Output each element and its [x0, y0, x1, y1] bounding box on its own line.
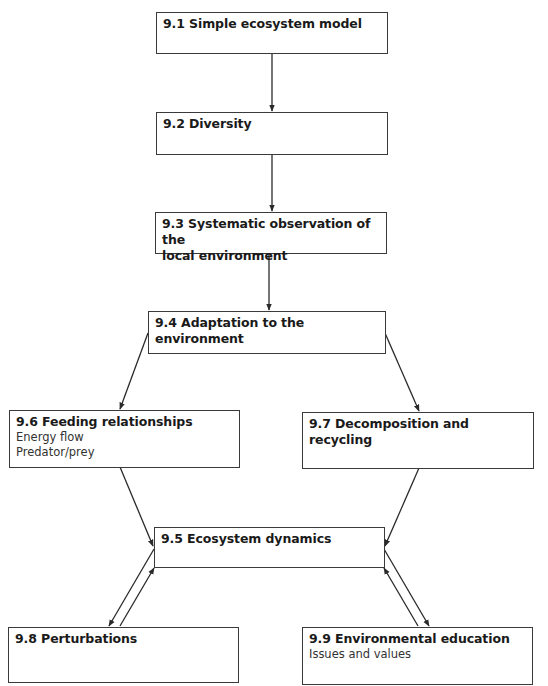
node-title: 9.4 Adaptation to the environment: [155, 315, 379, 347]
node-9-1-simple-ecosystem-model: 9.1 Simple ecosystem model: [156, 12, 388, 54]
node-title-line-2: local environment: [162, 248, 380, 264]
node-9-6-feeding-relationships: 9.6 Feeding relationships Energy flow Pr…: [9, 410, 240, 468]
node-9-3-systematic-observation: 9.3 Systematic observation of the local …: [155, 212, 387, 254]
node-title: 9.9 Environmental education: [309, 631, 526, 647]
node-subitem-predator-prey: Predator/prey: [16, 445, 233, 460]
node-9-2-diversity: 9.2 Diversity: [156, 112, 388, 155]
node-title: 9.2 Diversity: [163, 116, 381, 132]
arrow-9-6-to-9-5: [120, 467, 153, 546]
node-9-9-environmental-education: 9.9 Environmental education Issues and v…: [302, 627, 533, 685]
node-9-8-perturbations: 9.8 Perturbations: [8, 627, 239, 683]
node-title: 9.6 Feeding relationships: [16, 414, 233, 430]
node-9-5-ecosystem-dynamics: 9.5 Ecosystem dynamics: [154, 527, 385, 568]
node-title: 9.8 Perturbations: [15, 631, 232, 647]
node-title: 9.5 Ecosystem dynamics: [161, 531, 378, 547]
arrow-9-4-to-9-7: [385, 333, 419, 411]
arrow-9-5-to-9-8: [109, 549, 154, 626]
arrow-9-7-to-9-5: [385, 468, 419, 546]
node-subitem-issues-values: Issues and values: [309, 647, 526, 662]
node-subitem-energy-flow: Energy flow: [16, 430, 233, 445]
node-9-7-decomposition-recycling: 9.7 Decomposition and recycling: [302, 412, 534, 469]
arrow-9-5-to-9-9: [384, 549, 429, 626]
node-title: 9.7 Decomposition and recycling: [309, 416, 527, 448]
node-title: 9.1 Simple ecosystem model: [163, 16, 381, 32]
arrow-9-4-to-9-6: [120, 333, 148, 409]
node-9-4-adaptation: 9.4 Adaptation to the environment: [148, 311, 386, 354]
node-title-line-1: 9.3 Systematic observation of the: [162, 216, 380, 248]
arrow-9-9-to-9-5: [384, 568, 418, 626]
arrow-9-8-to-9-5: [120, 568, 154, 626]
